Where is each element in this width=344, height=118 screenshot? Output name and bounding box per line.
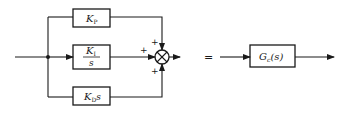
sum-sign-top: +	[151, 37, 159, 47]
ki-denominator-label: s	[89, 58, 94, 68]
branch-point	[46, 55, 50, 59]
sum-sign-left: +	[140, 45, 148, 55]
pid-block-diagram: KP KI s KDs + + + = Gc(s)	[0, 0, 344, 118]
ki-numerator-label: KI	[85, 45, 96, 57]
equals-sign: =	[204, 51, 213, 64]
kp-label: KP	[85, 13, 98, 25]
kd-label: KDs	[83, 91, 101, 103]
sum-sign-bottom: +	[151, 66, 159, 76]
gc-label: Gc(s)	[259, 51, 283, 63]
